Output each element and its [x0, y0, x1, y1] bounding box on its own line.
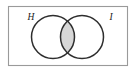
venn-diagram-canvas: H I	[0, 0, 135, 72]
venn-diagram-figure: H I	[0, 0, 135, 72]
set-label-h: H	[27, 12, 36, 22]
